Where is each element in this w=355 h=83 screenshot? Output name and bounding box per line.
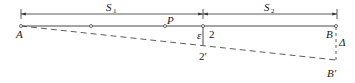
label-p: P xyxy=(166,14,174,26)
label-b-prime: B′ xyxy=(327,67,337,79)
node-mid xyxy=(90,25,93,28)
label-s2-subscript: 2 xyxy=(271,7,275,15)
label-delta: Δ xyxy=(338,36,345,48)
label-2-prime: 2′ xyxy=(199,50,207,62)
label-b: B xyxy=(326,28,333,40)
label-2: 2 xyxy=(209,28,215,40)
node-b xyxy=(335,25,338,28)
node-2 xyxy=(202,25,205,28)
label-a: A xyxy=(15,28,23,40)
label-s1-subscript: 1 xyxy=(113,7,117,15)
label-epsilon: ε xyxy=(197,29,202,41)
deflected-line xyxy=(21,26,336,60)
label-s1: S xyxy=(106,1,112,13)
label-s2: S xyxy=(264,1,270,13)
displacement-diagram: S 1 S 2 A P 2 B 2′ B′ ε Δ xyxy=(0,0,355,83)
